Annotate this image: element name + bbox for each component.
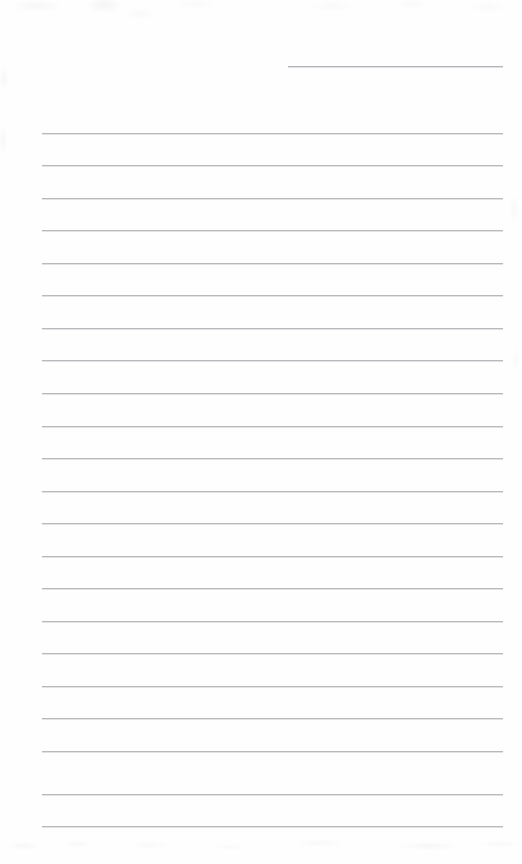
- writing-rule-line[interactable]: [42, 751, 503, 752]
- writing-rule-line[interactable]: [42, 718, 503, 719]
- writing-rule-line[interactable]: [42, 686, 503, 687]
- paper-grain-right-decoration: [500, 150, 522, 450]
- writing-rule-line[interactable]: [42, 263, 503, 264]
- paper-grain-top-left-decoration: [0, 0, 230, 42]
- lined-paper-page: [0, 0, 522, 864]
- header-entry-rule[interactable]: [288, 66, 503, 67]
- paper-grain-left-decoration: [0, 20, 26, 170]
- writing-rule-line[interactable]: [42, 198, 503, 199]
- writing-rule-line[interactable]: [42, 295, 503, 296]
- writing-rule-line[interactable]: [42, 794, 503, 795]
- writing-rule-line[interactable]: [42, 653, 503, 654]
- writing-rule-line[interactable]: [42, 328, 503, 329]
- writing-rule-line[interactable]: [42, 458, 503, 459]
- writing-rule-line[interactable]: [42, 588, 503, 589]
- writing-rule-line[interactable]: [42, 523, 503, 524]
- writing-rule-line[interactable]: [42, 393, 503, 394]
- writing-rule-line[interactable]: [42, 165, 503, 166]
- writing-rule-line[interactable]: [42, 360, 503, 361]
- writing-rule-line[interactable]: [42, 491, 503, 492]
- writing-rule-line[interactable]: [42, 230, 503, 231]
- writing-rule-line[interactable]: [42, 826, 503, 827]
- writing-rule-line[interactable]: [42, 426, 503, 427]
- paper-grain-top-right-decoration: [292, 0, 522, 36]
- writing-rule-line[interactable]: [42, 621, 503, 622]
- writing-rule-line[interactable]: [42, 133, 503, 134]
- writing-rule-line[interactable]: [42, 556, 503, 557]
- paper-grain-bottom-decoration: [0, 810, 522, 864]
